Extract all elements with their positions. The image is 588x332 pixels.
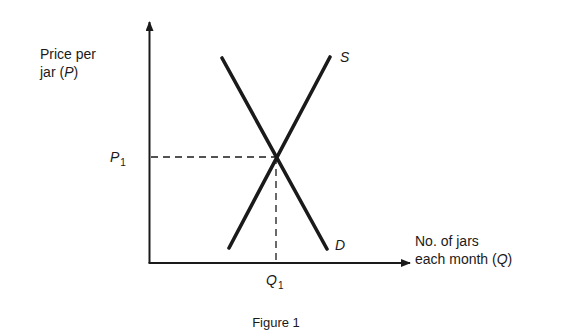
x-axis-label-line1: No. of jars	[415, 232, 512, 250]
supply-curve	[229, 57, 330, 248]
x-axis-label-line2: each month (Q)	[415, 250, 512, 268]
figure-caption: Figure 1	[0, 314, 552, 332]
demand-curve	[222, 58, 327, 249]
y-axis-label-line2: jar (P)	[40, 63, 96, 81]
p1-tick-label: P1	[110, 148, 126, 168]
q1-tick-label: Q1	[266, 271, 283, 291]
y-axis-label: Price per jar (P)	[40, 45, 96, 81]
x-axis-label: No. of jars each month (Q)	[415, 232, 512, 268]
y-axis-label-line1: Price per	[40, 45, 96, 63]
demand-curve-label: D	[335, 236, 345, 254]
supply-curve-label: S	[340, 48, 349, 66]
